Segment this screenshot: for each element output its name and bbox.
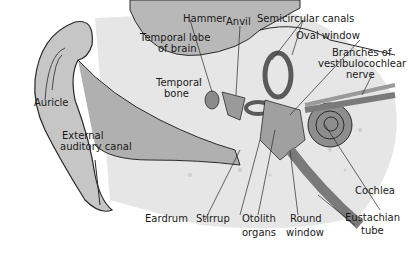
label-branches-1: Branches of [332, 47, 391, 58]
label-anvil: Anvil [226, 16, 251, 27]
label-auricle: Auricle [34, 97, 69, 108]
label-oval-window: Oval window [296, 30, 360, 41]
label-temporal-bone-2: bone [164, 88, 189, 99]
label-eustachian-2: tube [361, 225, 384, 236]
label-hammer: Hammer [183, 13, 226, 24]
ear-diagram: Auricle External auditory canal Temporal… [0, 0, 419, 255]
label-temporal-lobe-1: Temporal lobe [140, 32, 210, 43]
label-otolith-2: organs [242, 227, 276, 238]
label-stirrup: Stirrup [196, 213, 230, 224]
label-round-1: Round [290, 213, 322, 224]
label-round-2: window [286, 227, 324, 238]
label-otolith-1: Otolith [242, 213, 276, 224]
label-temporal-lobe-2: of brain [158, 43, 197, 54]
label-semicircular-canals: Semicircular canals [257, 13, 354, 24]
label-cochlea: Cochlea [355, 185, 395, 196]
label-eardrum: Eardrum [145, 213, 188, 224]
label-branches-2: vestibulocochlear [318, 58, 406, 69]
label-eustachian-1: Eustachian [345, 212, 400, 223]
label-external-canal-2: auditory canal [60, 141, 132, 152]
label-temporal-bone-1: Temporal [156, 77, 202, 88]
label-external-canal-1: External [62, 130, 104, 141]
label-branches-3: nerve [346, 69, 375, 80]
